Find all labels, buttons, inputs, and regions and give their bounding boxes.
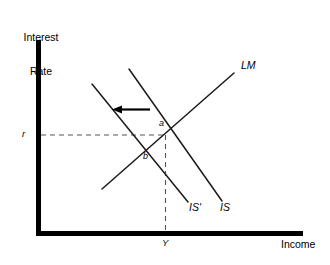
lm-curve [102, 73, 234, 189]
y-axis-title-line2: Rate [10, 66, 72, 77]
y-axis-title-line1: Interest [10, 32, 72, 43]
point-label-a: a [159, 119, 164, 129]
lm-curve-label: LM [241, 60, 256, 71]
y-tick-label-r: r [22, 129, 25, 139]
shift-arrow-icon [112, 106, 150, 114]
x-axis-line [36, 231, 303, 236]
point-label-b: b [143, 152, 148, 162]
is-prime-curve-label: IS' [189, 202, 201, 213]
y-axis-title: Interest Rate [10, 9, 72, 100]
axes-group [36, 40, 303, 236]
is-lm-diagram: Interest Rate Income r Y LM IS IS' a b [0, 0, 330, 265]
x-tick-label-y: Y [162, 238, 168, 248]
is-curve-label: IS [220, 202, 230, 213]
x-axis-title: Income [281, 239, 315, 250]
